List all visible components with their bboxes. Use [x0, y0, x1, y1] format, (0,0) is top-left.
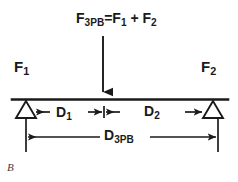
- reaction-force-left-label: F1: [14, 59, 29, 74]
- applied-force-equation: F3PB=F1 + F2: [76, 11, 157, 25]
- reaction-force-right-label: F2: [201, 59, 216, 74]
- dimension-d3pb-label: D3PB: [104, 128, 134, 142]
- dimension-d1-label: D1: [56, 105, 72, 119]
- dimension-d2-label: D2: [144, 104, 160, 118]
- three-point-bending-diagram: F3PB=F1 + F2 F1 F2 D1 D2 D3PB B: [0, 0, 238, 182]
- diagram-canvas: [0, 0, 238, 182]
- support-right-triangle: [203, 101, 223, 118]
- support-left-triangle: [16, 101, 36, 118]
- panel-letter: B: [7, 162, 14, 173]
